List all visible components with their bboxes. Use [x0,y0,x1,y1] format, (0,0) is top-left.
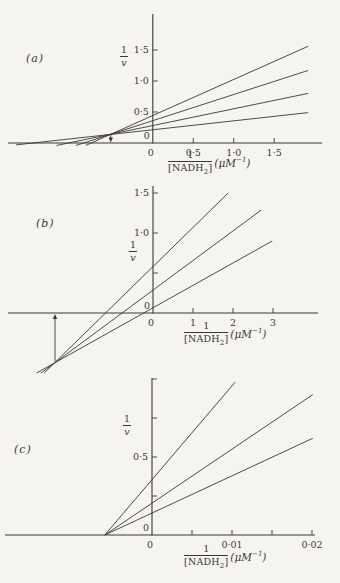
ylabel-denominator: v [118,57,130,68]
y-origin-label: 0 [144,300,150,311]
xlabel-unit: (μM−1) [230,551,266,562]
x-tick-label: 3 [270,317,276,328]
panel-label-c: (c) [14,443,32,456]
fit-line [57,93,309,145]
x-origin-label: 0 [148,147,154,158]
panel-c: 0·010·020·500 [5,378,323,550]
y-tick-label: 1·0 [134,75,149,86]
x-origin-label: 0 [147,539,153,550]
y-axis-label-c: 1 v [121,414,133,436]
xlabel-fraction: 1 [NADH2] [168,150,212,175]
panel-label-b: (b) [36,217,55,230]
xlabel-denominator: [NADH2] [184,556,228,570]
xlabel-fraction: 1 [NADH2] [184,321,228,346]
xlabel-unit: (μM−1) [214,157,250,168]
x-tick-label: 1·5 [267,147,282,158]
y-tick-label: 0·5 [133,451,148,462]
figure: 0·51·01·50·51·01·5001231·01·5000·010·020… [0,0,340,583]
panel-b: 1231·01·500 [8,186,318,373]
ylabel-denominator: v [121,426,133,437]
y-tick-label: 1·5 [134,44,149,55]
y-axis-label-a: 1 v [118,45,130,67]
y-axis-label-b: 1 v [127,240,139,262]
plots-canvas: 0·51·01·50·51·01·5001231·01·5000·010·020… [0,0,340,583]
xlabel-numerator: 1 [184,544,228,555]
y-origin-label: 0 [144,130,150,141]
fit-line [37,241,273,373]
y-tick-label: 0·5 [134,106,149,117]
x-axis-label-c: 1 [NADH2] (μM−1) [184,544,266,569]
ylabel-numerator: 1 [127,240,139,251]
panel-label-a: (a) [26,52,44,65]
xlabel-unit: (μM−1) [230,328,266,339]
x-axis-label-b: 1 [NADH2] (μM−1) [184,321,266,346]
xlabel-denominator: [NADH2] [168,162,212,176]
xlabel-numerator: 1 [184,321,228,332]
xlabel-denominator: [NADH2] [184,333,228,347]
ylabel-denominator: v [127,252,139,263]
fit-line [41,210,261,373]
ki-arrowhead-down [109,138,113,143]
y-origin-label: 0 [143,522,149,533]
fit-line [105,395,313,535]
ylabel-numerator: 1 [118,45,130,56]
xlabel-numerator: 1 [168,150,212,161]
ylabel-numerator: 1 [121,414,133,425]
y-tick-label: 1·5 [134,187,149,198]
x-origin-label: 0 [148,317,154,328]
x-axis-label-a: 1 [NADH2] (μM−1) [168,150,250,175]
y-tick-label: 1·0 [134,227,149,238]
xlabel-fraction: 1 [NADH2] [184,544,228,569]
fit-line [105,382,235,535]
x-tick-label: 0·02 [301,539,322,550]
panel-a: 0·51·01·50·51·01·500 [8,14,322,158]
ki-arrowhead-up [53,314,57,319]
